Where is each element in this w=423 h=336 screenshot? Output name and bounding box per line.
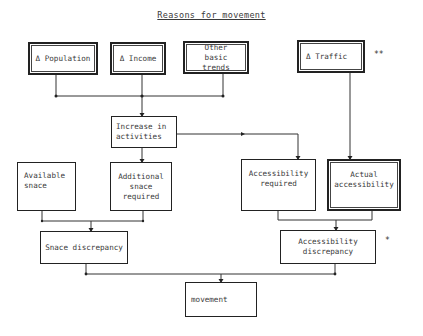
income-label: Δ Income	[120, 54, 157, 64]
increase-activities-label: Increase in activities	[116, 122, 172, 142]
traffic-label: Δ Traffic	[306, 52, 347, 62]
population-box: Δ Population	[28, 42, 98, 75]
population-label: Δ Population	[36, 54, 91, 64]
available-space-box: Available snace	[17, 162, 76, 211]
actual-accessibility-label: Actual accessibility	[331, 170, 397, 190]
space-discrepancy-label: Snace discrepancy	[45, 243, 123, 253]
accessibility-discrepancy-label: Accessibility discrepancy	[283, 237, 373, 257]
other-trends-box: Other basic trends	[183, 41, 249, 74]
accessibility-note-mark: *	[385, 236, 390, 245]
movement-label: movement	[191, 295, 228, 305]
additional-space-box: Additional snace required	[110, 162, 172, 211]
additional-space-label: Additional snace required	[114, 172, 168, 202]
space-discrepancy-box: Snace discrepancy	[40, 231, 128, 264]
available-space-label: Available snace	[24, 171, 69, 191]
movement-box: movement	[185, 282, 257, 317]
actual-accessibility-box: Actual accessibility	[327, 159, 401, 211]
accessibility-discrepancy-box: Accessibility discrepancy	[280, 230, 376, 264]
increase-activities-box: Increase in activities	[111, 116, 177, 148]
traffic-note-mark: **	[374, 50, 384, 59]
income-box: Δ Income	[110, 42, 166, 75]
traffic-box: Δ Traffic	[297, 40, 365, 73]
other-trends-label: Other basic trends	[191, 43, 241, 73]
accessibility-required-label: Accessibility required	[244, 169, 313, 189]
accessibility-required-box: Accessibility required	[241, 159, 316, 211]
